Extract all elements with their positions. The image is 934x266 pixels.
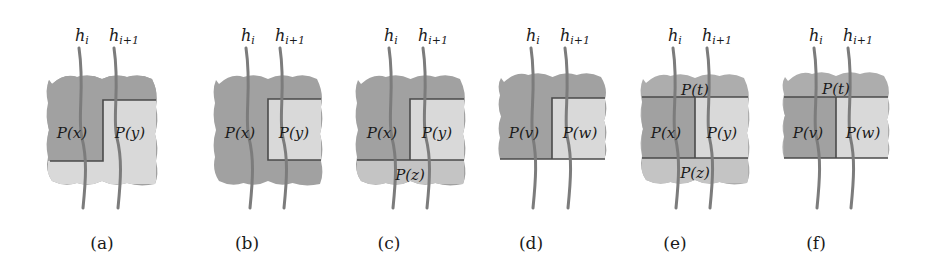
region-label: P(x) [366, 124, 397, 142]
caption-c: (c) [378, 233, 401, 253]
region-label: P(y) [114, 124, 145, 142]
region-label: P(z) [679, 164, 710, 182]
curve-label-left: hi [668, 26, 682, 47]
region-label: P(w) [562, 124, 598, 142]
curve-label-left: hi [75, 26, 89, 47]
caption-b: (b) [235, 233, 259, 253]
curve-label-right: hi+1 [418, 26, 448, 47]
caption-a: (a) [90, 233, 113, 253]
figure: hihi+1hihi+1hihi+1hihi+1hihi+1hihi+1P(x)… [0, 0, 934, 266]
region-label: P(t) [821, 80, 850, 98]
region-label: P(x) [56, 124, 87, 142]
curve-label-left: hi [241, 26, 255, 47]
curve-label-right: hi+1 [702, 26, 732, 47]
region-label: P(t) [680, 81, 709, 99]
region-label: P(z) [394, 166, 425, 184]
region-label: P(x) [650, 124, 681, 142]
curve-label-right: hi+1 [843, 26, 873, 47]
diagram-canvas: hihi+1hihi+1hihi+1hihi+1hihi+1hihi+1P(x)… [0, 0, 934, 266]
caption-f: (f) [806, 233, 826, 253]
region-label: P(y) [706, 124, 737, 142]
region-label: P(v) [508, 124, 539, 142]
curve-label-left: hi [809, 26, 823, 47]
region-label: P(y) [278, 124, 309, 142]
panel-d [498, 73, 606, 159]
region-label: P(x) [224, 124, 255, 142]
region-label: P(w) [845, 124, 881, 142]
curve-label-right: hi+1 [560, 26, 590, 47]
region-label: P(y) [421, 124, 452, 142]
curve-label-left: hi [526, 26, 540, 47]
region-label: P(v) [792, 124, 823, 142]
curve-label-left: hi [384, 26, 398, 47]
curve-label-right: hi+1 [109, 26, 139, 47]
curve-label-right: hi+1 [275, 26, 305, 47]
caption-e: (e) [663, 233, 686, 253]
caption-d: (d) [519, 233, 543, 253]
